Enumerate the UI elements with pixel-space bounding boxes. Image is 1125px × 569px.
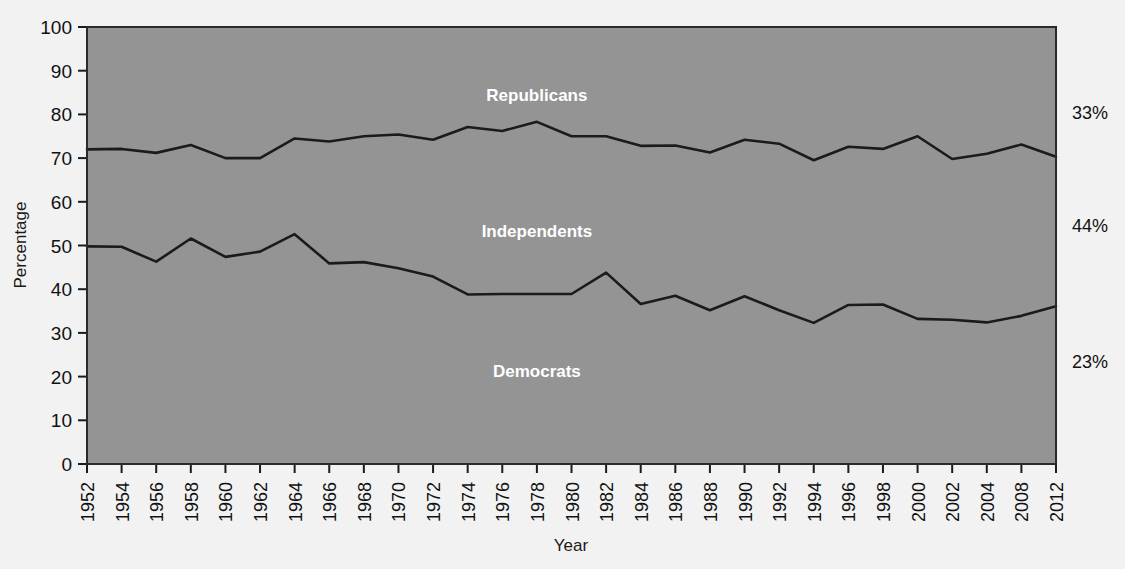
x-tick-label: 1978 [528, 482, 548, 522]
x-tick-label: 1956 [147, 482, 167, 522]
x-tick-label: 1952 [78, 482, 98, 522]
x-tick-label: 1980 [563, 482, 583, 522]
x-tick-label: 1954 [113, 482, 133, 522]
x-axis-ticks: 1952195419561958196019621964196619681970… [78, 464, 1067, 522]
x-tick-label: 2002 [943, 482, 963, 522]
x-tick-label: 2012 [1047, 482, 1067, 522]
right-annotation-republicans: 33% [1072, 103, 1108, 123]
percentage-by-party-area-chart: 0102030405060708090100 19521954195619581… [0, 0, 1125, 569]
x-tick-label: 1984 [632, 482, 652, 522]
x-tick-label: 1990 [736, 482, 756, 522]
x-tick-label: 1972 [424, 482, 444, 522]
x-tick-label: 1970 [389, 482, 409, 522]
x-tick-label: 1992 [770, 482, 790, 522]
y-tick-label: 100 [40, 17, 72, 38]
y-tick-label: 90 [51, 61, 72, 82]
x-tick-label: 1994 [805, 482, 825, 522]
chart-container: 0102030405060708090100 19521954195619581… [0, 0, 1125, 569]
x-tick-label: 1958 [182, 482, 202, 522]
band-label-republicans: Republicans [486, 86, 587, 105]
band-label-independents: Independents [482, 222, 593, 241]
x-tick-label: 2000 [909, 482, 929, 522]
y-tick-label: 0 [61, 454, 72, 475]
y-tick-label: 80 [51, 104, 72, 125]
x-tick-label: 1998 [874, 482, 894, 522]
x-tick-label: 1988 [701, 482, 721, 522]
y-tick-label: 10 [51, 410, 72, 431]
x-tick-label: 1966 [320, 482, 340, 522]
y-axis-ticks: 0102030405060708090100 [40, 17, 87, 475]
x-tick-label: 1968 [355, 482, 375, 522]
x-tick-label: 1962 [251, 482, 271, 522]
x-tick-label: 2008 [1012, 482, 1032, 522]
x-tick-label: 1960 [216, 482, 236, 522]
y-tick-label: 60 [51, 192, 72, 213]
y-tick-label: 30 [51, 323, 72, 344]
y-tick-label: 40 [51, 279, 72, 300]
y-tick-label: 50 [51, 236, 72, 257]
x-tick-label: 1996 [839, 482, 859, 522]
y-axis-title: Percentage [11, 202, 30, 289]
x-tick-label: 2004 [978, 482, 998, 522]
x-tick-label: 1976 [493, 482, 513, 522]
x-axis-title: Year [554, 536, 589, 555]
x-tick-label: 1982 [597, 482, 617, 522]
right-annotation-democrats: 23% [1072, 352, 1108, 372]
x-tick-label: 1964 [286, 482, 306, 522]
x-tick-label: 1986 [666, 482, 686, 522]
band-label-democrats: Democrats [493, 362, 581, 381]
y-tick-label: 20 [51, 367, 72, 388]
y-tick-label: 70 [51, 148, 72, 169]
right-annotation-independents: 44% [1072, 216, 1108, 236]
x-tick-label: 1974 [459, 482, 479, 522]
